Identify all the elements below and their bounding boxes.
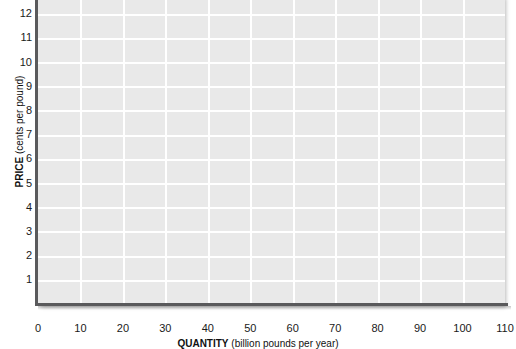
gridline-vertical: [335, 0, 337, 305]
chart-figure: 123456789101112 010203040506070809010011…: [0, 0, 516, 349]
gridline-horizontal: [38, 14, 505, 16]
gridline-vertical: [123, 0, 125, 305]
gridline-horizontal: [38, 38, 505, 40]
x-axis-tick-label: 20: [103, 323, 143, 334]
gridline-horizontal: [38, 280, 505, 282]
gridline-vertical: [420, 0, 422, 305]
x-axis-tick-labels: 0102030405060708090100110: [0, 323, 516, 337]
gridline-vertical: [80, 0, 82, 305]
plot-area: [38, 0, 505, 305]
gridline-horizontal: [38, 231, 505, 233]
gridline-vertical: [293, 0, 295, 305]
x-axis-tick-label: 40: [188, 323, 228, 334]
gridline-vertical: [250, 0, 252, 305]
y-axis-tick-label: 3: [2, 226, 32, 237]
y-axis-tick-label: 11: [2, 32, 32, 43]
y-axis-title-units: (cents per pound): [14, 76, 25, 154]
gridline-horizontal: [38, 62, 505, 64]
x-axis-tick-label: 60: [273, 323, 313, 334]
gridline-horizontal: [38, 110, 505, 112]
y-axis-tick-label: 1: [2, 274, 32, 285]
x-axis-tick-label: 100: [443, 323, 483, 334]
gridline-vertical: [165, 0, 167, 305]
x-axis-tick-label: 10: [60, 323, 100, 334]
gridline-horizontal: [38, 86, 505, 88]
x-axis-title-units: (billion pounds per year): [231, 338, 338, 349]
x-axis-tick-label: 0: [18, 323, 58, 334]
y-axis-tick-label: 12: [2, 8, 32, 19]
x-axis-tick-label: 30: [145, 323, 185, 334]
x-axis-shadow: [38, 306, 511, 310]
y-axis-title: PRICE (cents per pound): [14, 57, 25, 207]
gridline-vertical: [463, 0, 465, 305]
y-axis-title-bold: PRICE: [14, 157, 25, 188]
x-axis-title-bold: QUANTITY: [177, 338, 228, 349]
x-axis-tick-label: 50: [230, 323, 270, 334]
x-axis-tick-label: 80: [358, 323, 398, 334]
y-axis-tick-label: 2: [2, 250, 32, 261]
gridline-horizontal: [38, 256, 505, 258]
y-axis-line: [35, 0, 38, 306]
x-axis-tick-label: 70: [315, 323, 355, 334]
x-axis-tick-label: 90: [400, 323, 440, 334]
gridline-horizontal: [38, 159, 505, 161]
x-axis-title: QUANTITY (billion pounds per year): [0, 338, 516, 349]
gridline-horizontal: [38, 135, 505, 137]
plot-grid-surface: [38, 0, 505, 305]
x-axis-tick-label: 110: [485, 323, 516, 334]
gridline-vertical: [208, 0, 210, 305]
gridline-vertical: [378, 0, 380, 305]
gridline-horizontal: [38, 207, 505, 209]
gridline-horizontal: [38, 183, 505, 185]
